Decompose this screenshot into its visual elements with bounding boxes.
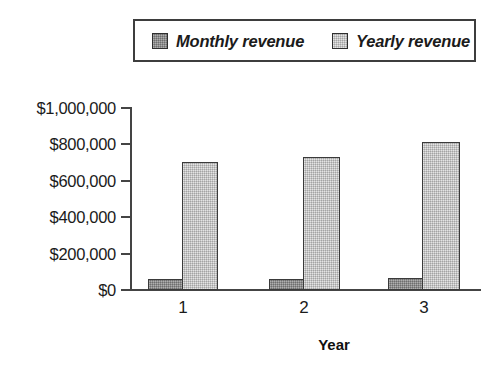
bar-monthly-revenue-year-1[interactable] xyxy=(148,279,183,290)
y-axis-line xyxy=(130,107,132,291)
legend-label-monthly-revenue: Monthly revenue xyxy=(176,32,304,51)
bar-yearly-revenue-year-2[interactable] xyxy=(303,157,340,290)
y-axis-label-1000000-wrap: $1,000,000 xyxy=(4,99,116,117)
x-axis-title-wrap: Year xyxy=(0,336,497,353)
x-axis-title: Year xyxy=(318,336,350,353)
bar-yearly-revenue-year-1[interactable] xyxy=(182,162,218,290)
y-axis-label-600000-wrap: $600,000 xyxy=(4,172,116,190)
bar-chart: Monthly revenue Yearly revenue $1,000,00… xyxy=(0,0,497,372)
y-axis-tick-600000 xyxy=(121,180,131,182)
y-axis-label-600000: $600,000 xyxy=(4,172,116,191)
y-axis-tick-800000 xyxy=(121,143,131,145)
y-axis-tick-200000 xyxy=(121,253,131,255)
y-axis-label-0: $0 xyxy=(4,281,116,300)
y-axis-label-400000: $400,000 xyxy=(4,208,116,227)
bar-monthly-revenue-year-2[interactable] xyxy=(269,279,304,290)
y-axis-label-400000-wrap: $400,000 xyxy=(4,208,116,226)
legend-item-yearly-revenue[interactable]: Yearly revenue xyxy=(332,31,470,51)
x-axis-label-year-1: 1 xyxy=(163,298,203,318)
y-axis-label-200000: $200,000 xyxy=(4,245,116,264)
bar-yearly-revenue-year-3[interactable] xyxy=(422,142,460,290)
legend-swatch-monthly-revenue-icon xyxy=(152,33,168,49)
bar-monthly-revenue-year-3[interactable] xyxy=(388,278,423,290)
x-axis-label-year-3: 3 xyxy=(404,298,444,318)
y-axis-label-1000000: $1,000,000 xyxy=(4,99,116,118)
chart-legend: Monthly revenue Yearly revenue xyxy=(133,19,476,62)
legend-swatch-yearly-revenue-icon xyxy=(332,33,348,49)
y-axis-tick-1000000 xyxy=(121,107,131,109)
y-axis-label-0-wrap: $0 xyxy=(4,281,116,299)
y-axis-label-200000-wrap: $200,000 xyxy=(4,245,116,263)
y-axis-tick-400000 xyxy=(121,216,131,218)
y-axis-label-800000-wrap: $800,000 xyxy=(4,135,116,153)
legend-label-yearly-revenue: Yearly revenue xyxy=(356,32,470,51)
x-axis-label-year-2: 2 xyxy=(284,298,324,318)
y-axis-label-800000: $800,000 xyxy=(4,135,116,154)
y-axis-tick-0 xyxy=(121,289,131,291)
legend-item-monthly-revenue[interactable]: Monthly revenue xyxy=(152,31,304,51)
